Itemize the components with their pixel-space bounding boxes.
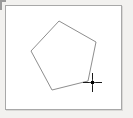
crosshair-center-dot [91,81,94,84]
drawing-canvas[interactable] [5,5,122,110]
app-root [0,0,133,118]
crosshair-arm-bottom [92,86,93,92]
crosshair-cursor [83,73,102,92]
crosshair-arm-right [96,82,102,83]
